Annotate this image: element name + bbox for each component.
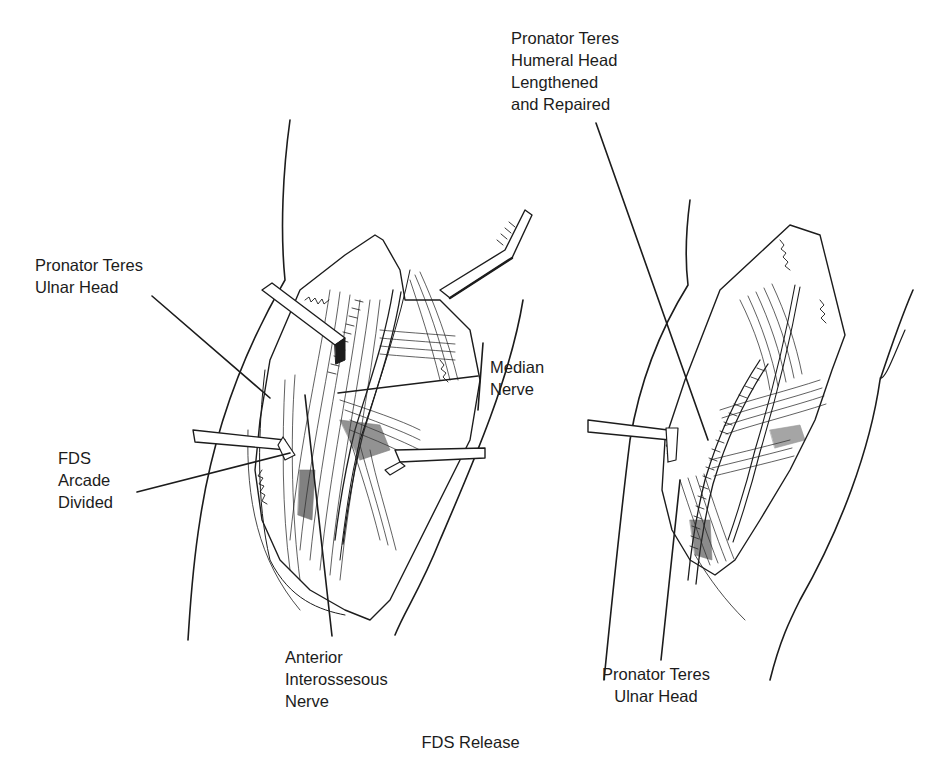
label-line: Humeral Head [511,49,619,71]
label-line: Median [490,356,544,378]
label-pronator-teres-ulnar-head-right: Pronator Teres Ulnar Head [582,663,730,707]
label-line: Pronator Teres [582,663,730,685]
label-line: Anterior [285,646,388,668]
label-line: Interossesous [285,668,388,690]
label-line: Ulnar Head [35,276,143,298]
label-line: Divided [58,491,113,513]
label-line: Lengthened [511,71,619,93]
label-pronator-teres-ulnar-head-left: Pronator Teres Ulnar Head [35,254,143,298]
label-line: FDS [58,447,113,469]
label-pronator-teres-humeral-head: Pronator Teres Humeral Head Lengthened a… [511,27,619,115]
label-line: Nerve [490,378,544,400]
label-line: Pronator Teres [511,27,619,49]
label-line: Pronator Teres [35,254,143,276]
surgical-illustration [0,0,941,761]
label-anterior-interosseous-nerve: Anterior Interossesous Nerve [285,646,388,712]
right-arm-drawing [588,200,913,680]
figure-caption: FDS Release [0,733,941,752]
label-line: Nerve [285,690,388,712]
label-line: Arcade [58,469,113,491]
label-line: Ulnar Head [582,685,730,707]
label-line: and Repaired [511,93,619,115]
label-median-nerve: Median Nerve [490,356,544,400]
label-fds-arcade-divided: FDS Arcade Divided [58,447,113,513]
